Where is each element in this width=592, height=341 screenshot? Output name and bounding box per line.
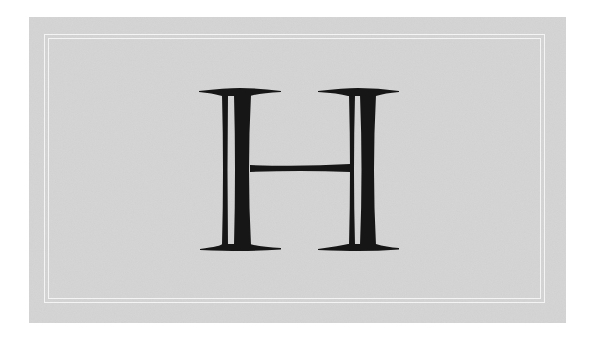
letter-h-glyph <box>0 0 592 341</box>
